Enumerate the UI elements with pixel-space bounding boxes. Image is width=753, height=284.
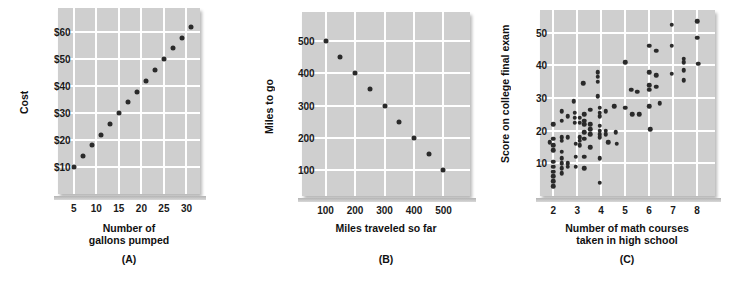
data-point	[551, 143, 556, 148]
data-point	[89, 143, 94, 148]
data-point	[635, 89, 640, 94]
data-point	[559, 171, 564, 176]
gridline-horizontal	[58, 58, 200, 60]
gridline-horizontal	[58, 166, 200, 168]
data-point	[606, 140, 611, 145]
data-point	[574, 155, 579, 160]
data-point	[397, 119, 402, 124]
gridline-horizontal	[540, 32, 715, 34]
panel-c-x-axis-title-line1: Number of math courses	[565, 222, 689, 234]
data-point	[695, 35, 700, 40]
data-point	[595, 80, 600, 85]
panel-c-x-axis-title-line2: taken in high school	[576, 234, 678, 246]
x-tick-label: 400	[406, 205, 423, 216]
data-point	[582, 122, 587, 127]
x-axis-baseline	[298, 198, 476, 202]
data-point	[670, 22, 675, 27]
data-point	[598, 114, 603, 119]
data-point	[623, 106, 628, 111]
data-point	[152, 68, 157, 73]
data-point	[551, 122, 556, 127]
data-point	[559, 119, 564, 124]
data-point	[559, 161, 564, 166]
data-point	[179, 35, 184, 40]
x-tick-label: 200	[347, 205, 364, 216]
data-point	[647, 44, 652, 49]
data-point	[598, 181, 603, 186]
panel-a-plot-area	[58, 8, 200, 194]
data-point	[353, 71, 358, 76]
data-point	[598, 156, 603, 161]
data-point	[612, 104, 617, 109]
panel-c-y-axis-title: Score on college final exam	[499, 18, 511, 170]
data-point	[551, 179, 556, 184]
panel-a: 51015202530$10$20$30$40$50$60 Cost Numbe…	[0, 0, 250, 284]
x-tick-label: 7	[670, 205, 676, 216]
data-point	[695, 19, 700, 24]
gridline-horizontal	[58, 85, 200, 87]
data-point	[595, 75, 600, 80]
data-point	[582, 155, 587, 160]
data-point	[647, 104, 652, 109]
x-tick-label: 300	[376, 205, 393, 216]
x-tick-label: 20	[136, 203, 147, 214]
data-point	[323, 39, 328, 44]
x-tick-label: 5	[71, 203, 77, 214]
data-point	[98, 132, 103, 137]
x-tick-label: 8	[694, 205, 700, 216]
data-point	[682, 60, 687, 65]
data-point	[551, 184, 556, 189]
data-point	[559, 109, 564, 114]
data-point	[670, 44, 675, 49]
data-point	[598, 135, 603, 140]
data-point	[565, 164, 570, 169]
panel-a-y-axis-title: Cost	[18, 78, 30, 126]
data-point	[551, 174, 556, 179]
data-point	[565, 135, 570, 140]
data-point	[116, 111, 121, 116]
data-point	[682, 78, 687, 83]
scatterplot-figure: 51015202530$10$20$30$40$50$60 Cost Numbe…	[0, 0, 753, 284]
x-axis-baseline	[536, 198, 721, 202]
data-point	[623, 60, 628, 65]
data-point	[338, 55, 343, 60]
data-point	[588, 132, 593, 137]
x-tick-label: 10	[91, 203, 102, 214]
data-point	[565, 114, 570, 119]
data-point	[598, 124, 603, 129]
data-point	[71, 165, 76, 170]
data-point	[559, 156, 564, 161]
data-point	[648, 127, 653, 132]
data-point	[582, 130, 587, 135]
x-tick-label: 4	[598, 205, 604, 216]
x-tick-label: 5	[622, 205, 628, 216]
data-point	[161, 57, 166, 62]
panel-b-x-axis-title-line1: Miles traveled so far	[336, 222, 437, 234]
gridline-horizontal	[58, 31, 200, 33]
gridline-horizontal	[540, 97, 715, 99]
data-point	[551, 164, 556, 169]
panel-c-caption: (C)	[620, 253, 635, 265]
gridline-vertical	[672, 10, 674, 196]
panel-b: 100200300400500100200300400500 Miles to …	[250, 0, 500, 284]
gridline-horizontal	[540, 130, 715, 132]
data-point	[588, 122, 593, 127]
data-point	[595, 70, 600, 75]
gridline-horizontal	[58, 112, 200, 114]
data-point	[654, 49, 659, 54]
data-point	[170, 46, 175, 51]
data-point	[654, 84, 659, 89]
x-tick-label: 15	[113, 203, 124, 214]
x-tick-label: 3	[574, 205, 580, 216]
data-point	[682, 68, 687, 73]
data-point	[125, 100, 130, 105]
panel-c-plot-area	[540, 10, 715, 196]
data-point	[598, 106, 603, 111]
data-point	[188, 24, 193, 29]
panel-c: 23456781020304050 Score on college final…	[490, 0, 753, 284]
data-point	[581, 81, 586, 86]
x-tick-label: 25	[158, 203, 169, 214]
gridline-vertical	[624, 10, 626, 196]
panel-a-caption: (A)	[122, 253, 137, 265]
x-tick-label: 30	[181, 203, 192, 214]
